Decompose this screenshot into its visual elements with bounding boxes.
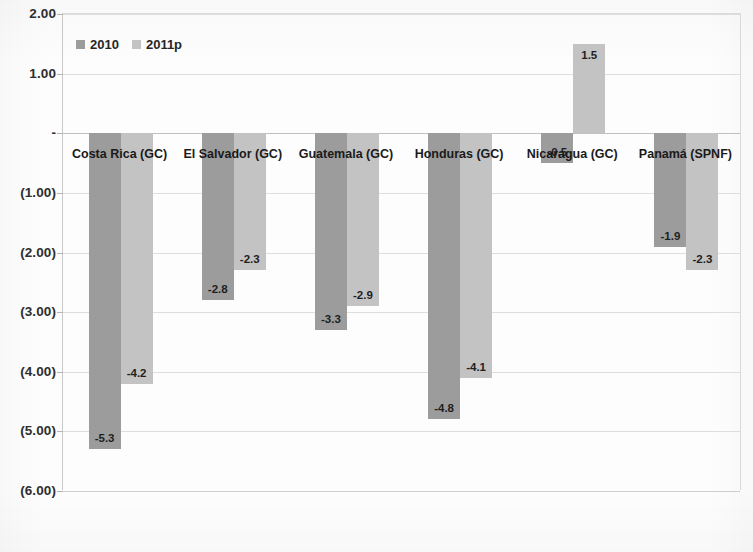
y-axis-tick bbox=[57, 193, 63, 194]
gridline bbox=[63, 74, 740, 75]
bar-honduras-gc-2011p bbox=[460, 133, 492, 377]
bar-chart: 2.001.00-(1.00)(2.00)(3.00)(4.00)(5.00)(… bbox=[0, 0, 753, 552]
bar-value-label: -2.9 bbox=[341, 289, 385, 301]
gridline bbox=[63, 253, 740, 254]
bar-value-label: -2.8 bbox=[196, 283, 240, 295]
y-axis-tick-label: (4.00) bbox=[0, 363, 56, 378]
y-axis-tick bbox=[57, 431, 63, 432]
category-label-honduras-gc: Honduras (GC) bbox=[415, 147, 504, 161]
y-axis-tick bbox=[57, 14, 63, 15]
legend-label: 2011p bbox=[146, 38, 182, 51]
category-label-guatemala-gc: Guatemala (GC) bbox=[299, 147, 393, 161]
y-axis-labels: 2.001.00-(1.00)(2.00)(3.00)(4.00)(5.00)(… bbox=[0, 13, 56, 490]
bar-value-label: -2.3 bbox=[228, 253, 272, 265]
y-axis-tick bbox=[57, 74, 63, 75]
category-label-panam-spnf: Panamá (SPNF) bbox=[639, 147, 732, 161]
y-axis-tick bbox=[57, 253, 63, 254]
bar-costa-rica-gc-2011p bbox=[121, 133, 153, 383]
y-axis-tick bbox=[57, 133, 63, 134]
y-axis-tick-label: (5.00) bbox=[0, 423, 56, 438]
y-axis-tick-label: 2.00 bbox=[0, 6, 56, 21]
chart-legend: 20102011p bbox=[76, 38, 182, 51]
bar-value-label: 1.5 bbox=[567, 49, 611, 61]
gridline bbox=[63, 431, 740, 432]
y-axis-tick-label: - bbox=[0, 125, 56, 140]
gridline bbox=[63, 312, 740, 313]
category-label-nicaragua-gc: Nicaragua (GC) bbox=[527, 147, 618, 161]
legend-item-2011p: 2011p bbox=[132, 38, 182, 51]
bar-value-label: -3.3 bbox=[309, 313, 353, 325]
legend-item-2010: 2010 bbox=[76, 38, 119, 51]
y-axis-tick-label: 1.00 bbox=[0, 65, 56, 80]
category-label-costa-rica-gc: Costa Rica (GC) bbox=[72, 147, 167, 161]
legend-label: 2010 bbox=[90, 38, 119, 51]
gridline bbox=[63, 372, 740, 373]
bar-costa-rica-gc-2010 bbox=[89, 133, 121, 449]
bar-value-label: -2.3 bbox=[680, 253, 724, 265]
bar-honduras-gc-2010 bbox=[428, 133, 460, 419]
gridline bbox=[63, 133, 740, 134]
gridline bbox=[63, 193, 740, 194]
y-axis-tick bbox=[57, 491, 63, 492]
y-axis-tick-label: (6.00) bbox=[0, 483, 56, 498]
gridline bbox=[63, 14, 740, 15]
y-axis-tick bbox=[57, 312, 63, 313]
y-axis-tick-label: (3.00) bbox=[0, 304, 56, 319]
y-axis-tick-label: (2.00) bbox=[0, 244, 56, 259]
bar-value-label: -5.3 bbox=[83, 432, 127, 444]
gridline bbox=[63, 491, 740, 492]
legend-swatch-icon bbox=[132, 40, 141, 49]
legend-swatch-icon bbox=[76, 40, 85, 49]
y-axis-tick bbox=[57, 372, 63, 373]
y-axis-tick-label: (1.00) bbox=[0, 184, 56, 199]
category-label-el-salvador-gc: El Salvador (GC) bbox=[183, 147, 282, 161]
bar-value-label: -4.2 bbox=[115, 367, 159, 379]
bar-value-label: -4.1 bbox=[454, 361, 498, 373]
plot-area: -5.3-4.2-2.8-2.3-3.3-2.9-4.8-4.1-0.51.5-… bbox=[62, 13, 741, 490]
bar-value-label: -4.8 bbox=[422, 402, 466, 414]
